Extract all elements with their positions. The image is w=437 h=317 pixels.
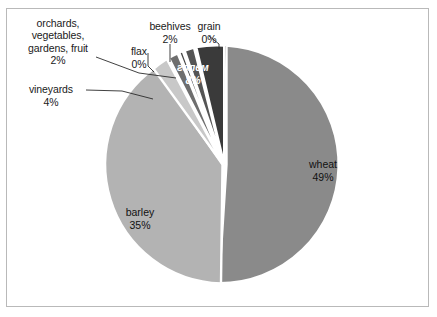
chart-screenshot: orchards, vegetables, gardens, fruit 2% … bbox=[0, 0, 437, 317]
label-flax: flax 0% bbox=[119, 45, 159, 70]
label-barley-value: 35% bbox=[108, 219, 172, 232]
label-vineyards: vineyards 4% bbox=[14, 83, 88, 108]
label-barley: barley 35% bbox=[108, 206, 172, 231]
label-orchards-line3: gardens, fruit bbox=[3, 42, 113, 54]
label-orchards-value: 2% bbox=[3, 54, 113, 66]
label-barley-name: barley bbox=[108, 206, 172, 219]
label-orchards-line1: orchards, bbox=[3, 17, 113, 29]
label-orchards: orchards, vegetables, gardens, fruit 2% bbox=[3, 17, 113, 67]
label-grain-name: grain bbox=[186, 20, 232, 33]
label-wheat-name: wheat bbox=[288, 158, 358, 171]
pie-slice-grain[interactable] bbox=[225, 45, 227, 164]
label-vineyards-name: vineyards bbox=[14, 83, 88, 96]
label-vineyards-value: 4% bbox=[14, 96, 88, 109]
label-grain-value: 0% bbox=[186, 33, 232, 46]
label-flax-name: flax bbox=[119, 45, 159, 58]
label-orchards-line2: vegetables, bbox=[3, 29, 113, 41]
label-wheat-value: 49% bbox=[288, 171, 358, 184]
label-flax-value: 0% bbox=[119, 58, 159, 71]
label-golem: голем 8% bbox=[163, 61, 223, 86]
label-golem-name: голем bbox=[163, 61, 223, 74]
label-golem-value: 8% bbox=[163, 74, 223, 87]
label-wheat: wheat 49% bbox=[288, 158, 358, 183]
label-grain: grain 0% bbox=[186, 20, 232, 45]
